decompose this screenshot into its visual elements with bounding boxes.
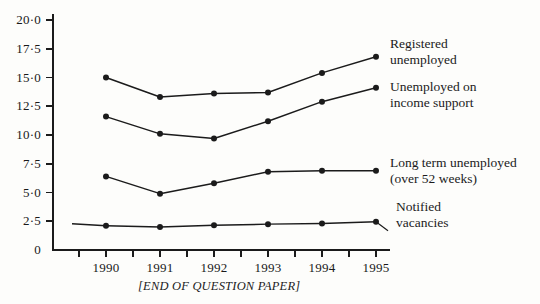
- x-axis-tick-label: 1993: [238, 261, 298, 274]
- series-line: [106, 171, 376, 194]
- x-axis-tick-label: 1990: [76, 261, 136, 274]
- y-axis-tick-label: 5·0: [0, 186, 41, 199]
- series-label-line: (over 52 weeks): [390, 171, 517, 187]
- data-point-marker: [157, 224, 163, 230]
- data-point-marker: [373, 54, 379, 60]
- data-point-marker: [211, 180, 217, 186]
- series-label-line: Notified: [396, 199, 448, 215]
- data-point-marker: [211, 91, 217, 97]
- data-point-marker: [373, 168, 379, 174]
- y-axis-tick-label: 2·5: [0, 214, 41, 227]
- series-line-extension: [72, 224, 106, 226]
- data-point-marker: [157, 191, 163, 197]
- data-point-marker: [103, 173, 109, 179]
- x-axis-tick-label: 1991: [130, 261, 190, 274]
- series-label: Notifiedvacancies: [396, 199, 448, 230]
- series-label-line: Unemployed on: [390, 79, 477, 95]
- chart-series-group: [72, 54, 388, 231]
- series-label: Unemployed onincome support: [390, 79, 477, 110]
- y-axis-tick-label: 12·5: [0, 99, 41, 112]
- data-point-marker: [373, 219, 379, 225]
- data-point-marker: [103, 114, 109, 120]
- y-axis-tick-label: 10·0: [0, 128, 41, 141]
- y-axis-tick-label: 20·0: [0, 13, 41, 26]
- data-point-marker: [373, 85, 379, 91]
- data-point-marker: [103, 75, 109, 81]
- data-point-marker: [319, 70, 325, 76]
- data-point-marker: [319, 168, 325, 174]
- footer-note: [END OF QUESTION PAPER]: [138, 279, 300, 293]
- data-point-marker: [211, 135, 217, 141]
- series-label: Registeredunemployed: [390, 36, 457, 67]
- data-point-marker: [265, 118, 271, 124]
- x-axis-tick-label: 1995: [346, 261, 406, 274]
- data-point-marker: [319, 221, 325, 227]
- data-point-marker: [103, 223, 109, 229]
- data-point-marker: [157, 131, 163, 137]
- series-label-line: income support: [390, 95, 477, 111]
- data-point-marker: [319, 99, 325, 105]
- series-label-line: vacancies: [396, 215, 448, 231]
- series-line: [106, 88, 376, 139]
- x-axis-tick-label: 1994: [292, 261, 352, 274]
- y-axis-tick-label: 15·0: [0, 71, 41, 84]
- chart-axes: [46, 14, 390, 257]
- data-point-marker: [211, 222, 217, 228]
- unemployment-line-chart: 02·55·07·510·012·515·017·520·0 199019911…: [0, 0, 540, 304]
- series-line: [106, 222, 376, 227]
- chart-plot-area: [0, 0, 540, 304]
- y-axis-tick-label: 7·5: [0, 157, 41, 170]
- data-point-marker: [265, 221, 271, 227]
- y-axis-tick-label: 0: [0, 243, 41, 256]
- data-point-marker: [157, 94, 163, 100]
- data-point-marker: [265, 89, 271, 95]
- series-line: [106, 57, 376, 97]
- series-label-line: unemployed: [390, 52, 457, 68]
- series-label-line: Registered: [390, 36, 457, 52]
- series-label: Long term unemployed(over 52 weeks): [390, 155, 517, 186]
- y-axis-tick-label: 17·5: [0, 42, 41, 55]
- series-label-line: Long term unemployed: [390, 155, 517, 171]
- data-point-marker: [265, 169, 271, 175]
- x-axis-tick-label: 1992: [184, 261, 244, 274]
